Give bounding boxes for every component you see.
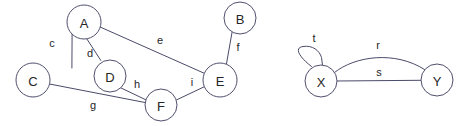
node-x-label: X bbox=[317, 75, 326, 90]
node-e[interactable]: E bbox=[203, 63, 237, 97]
node-y[interactable]: Y bbox=[421, 64, 453, 96]
edge-label-c: c bbox=[49, 37, 55, 49]
node-d-label: D bbox=[105, 70, 114, 85]
edge-label-h: h bbox=[134, 78, 140, 90]
edge-label-i: i bbox=[191, 76, 193, 88]
node-e-label: E bbox=[216, 74, 225, 89]
left-graph-edges bbox=[50, 27, 233, 103]
edge-f bbox=[226, 32, 232, 64]
edge-g bbox=[50, 84, 146, 103]
edge-t-self-loop bbox=[298, 46, 322, 66]
edge-i bbox=[177, 86, 205, 99]
node-a[interactable]: A bbox=[67, 5, 101, 39]
node-f[interactable]: F bbox=[145, 89, 177, 121]
edge-label-f: f bbox=[236, 41, 240, 53]
edge-label-d: d bbox=[87, 47, 93, 59]
node-b[interactable]: B bbox=[224, 2, 256, 34]
graph-canvas: A B C D E F bbox=[0, 0, 470, 126]
node-c[interactable]: C bbox=[16, 63, 50, 97]
edge-label-g: g bbox=[90, 99, 96, 111]
node-c-label: C bbox=[28, 74, 37, 89]
edge-label-s: s bbox=[376, 66, 382, 78]
edge-label-r: r bbox=[376, 39, 380, 51]
node-a-label: A bbox=[80, 16, 89, 31]
node-d[interactable]: D bbox=[94, 60, 126, 92]
left-graph: A B C D E F bbox=[16, 2, 256, 121]
edge-label-t: t bbox=[312, 32, 315, 44]
edge-s bbox=[337, 80, 421, 81]
edge-label-e: e bbox=[157, 34, 163, 46]
node-b-label: B bbox=[236, 12, 245, 27]
node-y-label: Y bbox=[433, 74, 442, 89]
right-graph: X Y t r s bbox=[298, 32, 453, 97]
graph-diagram: A B C D E F bbox=[0, 0, 470, 126]
node-x[interactable]: X bbox=[305, 65, 337, 97]
node-f-label: F bbox=[157, 99, 165, 114]
